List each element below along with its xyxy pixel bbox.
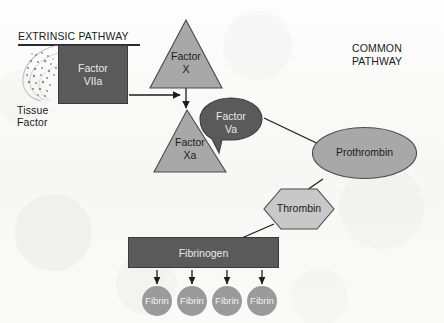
node-factor-va: Factor Va	[198, 97, 264, 159]
node-fibrin-label: Fibrin	[180, 296, 204, 306]
node-fibrin-label: Fibrin	[250, 296, 274, 306]
node-thrombin: Thrombin	[263, 188, 335, 230]
extrinsic-pathway-heading: EXTRINSIC PATHWAY	[18, 30, 129, 43]
node-factor-viia: Factor VIIa	[58, 45, 128, 104]
node-fibrinogen-label: Fibrinogen	[179, 247, 229, 259]
node-fibrin: Fibrin	[142, 286, 172, 316]
node-factor-viia-label: Factor VIIa	[78, 62, 108, 87]
coagulation-cascade-diagram: EXTRINSIC PATHWAY COMMON PATHWAY	[0, 0, 444, 323]
node-factor-x-label: Factor X	[148, 50, 224, 75]
node-fibrin-label: Fibrin	[215, 296, 239, 306]
node-fibrin: Fibrin	[177, 286, 207, 316]
node-fibrin-label: Fibrin	[145, 296, 169, 306]
node-prothrombin: Prothrombin	[311, 126, 418, 180]
node-fibrin: Fibrin	[247, 286, 277, 316]
node-fibrin: Fibrin	[212, 286, 242, 316]
node-factor-x: Factor X	[148, 18, 224, 90]
histology-micrograph-icon	[16, 44, 62, 102]
node-prothrombin-label: Prothrombin	[311, 146, 418, 158]
common-pathway-heading: COMMON PATHWAY	[352, 42, 402, 68]
node-factor-va-label: Factor Va	[198, 110, 264, 135]
tissue-factor-label: Tissue Factor	[17, 104, 48, 128]
node-thrombin-label: Thrombin	[263, 202, 335, 214]
node-fibrinogen: Fibrinogen	[128, 237, 279, 268]
